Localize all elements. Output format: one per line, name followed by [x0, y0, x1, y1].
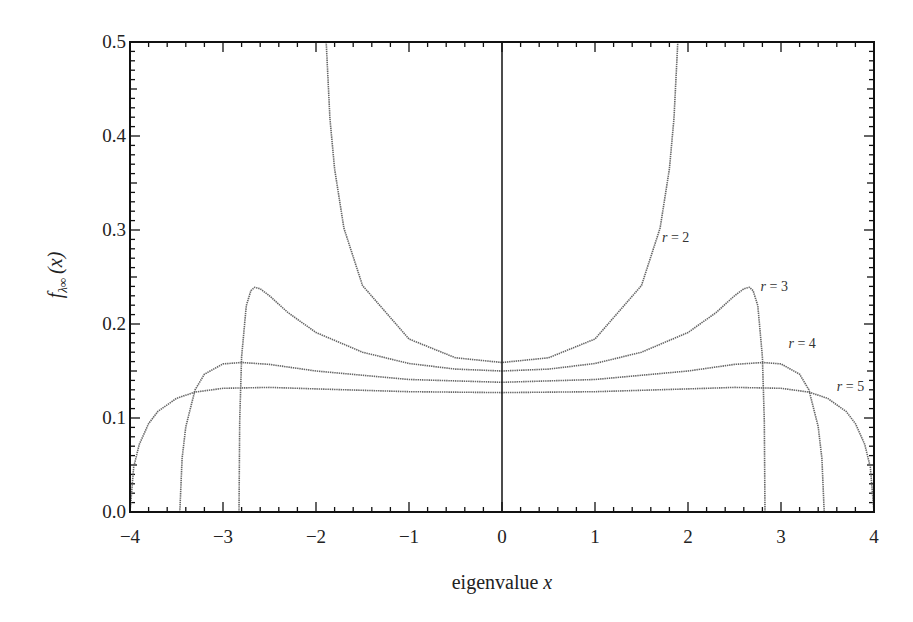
series-labels: r = 2r = 3r = 4r = 5: [662, 230, 864, 394]
x-tick-label: 0: [497, 526, 507, 547]
y-tick-label: 0.3: [102, 219, 126, 240]
x-axis-title: eigenvalue x: [452, 571, 553, 594]
x-tick-label: −4: [120, 526, 141, 547]
x-tick-label: −3: [213, 526, 233, 547]
x-tick-label: −2: [306, 526, 326, 547]
y-axis-title: fλ∞(x): [44, 251, 70, 298]
y-tick-label: 0.0: [102, 501, 126, 522]
eigenvalue-density-chart: −4−3−2−101234 0.00.10.20.30.40.5 r = 2r …: [0, 0, 913, 622]
series-label: r = 3: [761, 279, 788, 294]
y-tick-labels: 0.00.10.20.30.40.5: [102, 31, 126, 522]
y-tick-label: 0.4: [102, 125, 126, 146]
x-tick-label: 3: [776, 526, 786, 547]
x-axis-title-word: eigenvalue: [452, 571, 544, 594]
x-tick-label: −1: [399, 526, 419, 547]
series-label: r = 2: [662, 230, 689, 245]
x-tick-label: 2: [683, 526, 693, 547]
y-tick-label: 0.5: [102, 31, 126, 52]
series-label: r = 5: [837, 379, 864, 394]
series-label: r = 4: [788, 336, 815, 351]
y-tick-label: 0.2: [102, 313, 126, 334]
x-tick-labels: −4−3−2−101234: [120, 526, 879, 547]
y-axis-arg: (x): [44, 251, 67, 274]
y-axis-subscript: λ∞: [55, 278, 70, 294]
x-tick-label: 1: [590, 526, 600, 547]
x-tick-label: 4: [869, 526, 879, 547]
svg-text:fλ∞(x): fλ∞(x): [44, 251, 70, 298]
y-tick-label: 0.1: [102, 407, 126, 428]
x-axis-var: x: [542, 571, 552, 593]
